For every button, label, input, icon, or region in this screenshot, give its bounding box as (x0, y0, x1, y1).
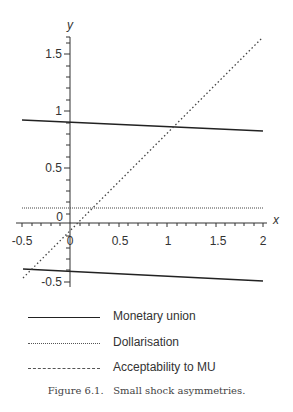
figure-caption: Figure 6.1. Small shock asymmetries. (0, 385, 293, 396)
caption-number: Figure 6.1. (48, 385, 104, 396)
series-monetary-union-upper (22, 120, 263, 131)
y-tick-label: 0 (56, 210, 63, 224)
x-tick-label: 1 (165, 234, 172, 248)
x-tick-label: -0.5 (12, 234, 33, 248)
legend-label: Acceptability to MU (113, 360, 216, 374)
legend-label: Dollarisation (113, 335, 179, 349)
x-tick-label: 0 (67, 234, 74, 248)
legend-swatch-dashed (28, 368, 100, 369)
y-tick-label: 1.5 (45, 47, 62, 61)
y-axis-label: y (66, 18, 74, 32)
y-tick-label: 0.5 (45, 161, 62, 175)
y-tick-label: 1 (55, 104, 62, 118)
legend-item-acceptability: Acceptability to MU (0, 358, 293, 378)
chart-plot-area: 1.5 1 0.5 0 -0.5 -0.5 0 0.5 1 1.5 2 y x (0, 0, 293, 300)
x-tick-label: 1.5 (210, 234, 227, 248)
legend-swatch-solid (28, 317, 100, 318)
legend-item-monetary-union: Monetary union (0, 307, 293, 327)
legend-swatch-dotted (28, 343, 100, 344)
y-tick-label: -0.5 (41, 275, 62, 289)
x-tick-label: 2 (260, 234, 267, 248)
x-axis-label: x (272, 213, 280, 227)
caption-text: Small shock asymmetries. (113, 385, 245, 396)
legend-item-dollarisation: Dollarisation (0, 333, 293, 353)
x-tick-label: 0.5 (112, 234, 129, 248)
legend-label: Monetary union (113, 309, 196, 323)
